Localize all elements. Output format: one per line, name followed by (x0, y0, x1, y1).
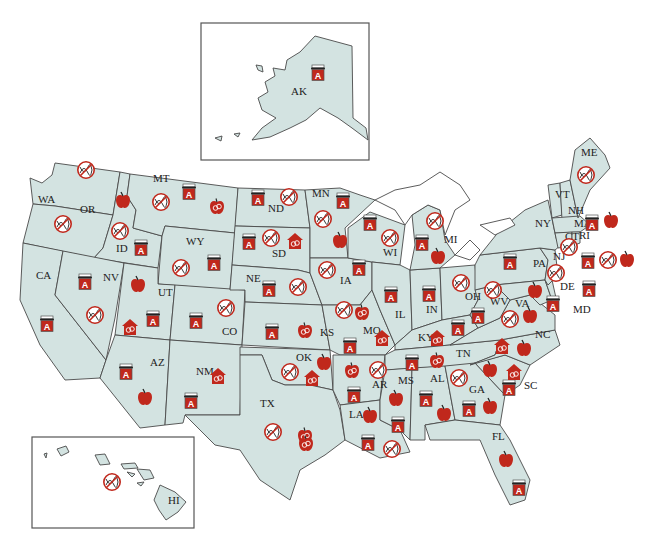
no-dna-icon (380, 228, 400, 248)
alaska-inset (201, 23, 369, 160)
grade-a-icon: A (582, 212, 602, 232)
state-label-me: ME (581, 146, 598, 158)
state-label-al: AL (430, 372, 445, 384)
state-label-nc: NC (535, 328, 550, 340)
no-dna-icon (313, 209, 333, 229)
grade-a-icon: A (509, 477, 529, 497)
svg-text:A: A (507, 260, 514, 270)
no-dna-icon (76, 160, 96, 180)
state-label-ca: CA (36, 269, 51, 281)
state-label-nv: NV (103, 271, 119, 283)
apple-icon (428, 246, 448, 266)
grade-a-icon: A (448, 317, 468, 337)
svg-text:A: A (193, 319, 200, 329)
state-label-ga: GA (469, 383, 485, 395)
svg-text:A: A (426, 292, 433, 302)
grade-a-icon: A (239, 231, 259, 251)
state-ks (242, 302, 330, 350)
state-label-il: IL (395, 308, 406, 320)
grade-a-icon: A (381, 284, 401, 304)
apple-gender-icon (295, 320, 315, 340)
svg-text:A: A (589, 221, 596, 231)
svg-text:A: A (44, 322, 51, 332)
apple-icon (496, 449, 516, 469)
svg-text:A: A (255, 196, 262, 206)
schoolhouse-gender-icon (285, 231, 305, 251)
grade-a-icon: A (75, 271, 95, 291)
grade-a-icon: A (340, 335, 360, 355)
svg-text:A: A (82, 280, 89, 290)
schoolhouse-gender-icon (120, 317, 140, 337)
no-dna-icon (102, 472, 122, 492)
svg-text:A: A (419, 241, 426, 251)
svg-text:A: A (138, 246, 145, 256)
apple-icon (128, 274, 148, 294)
apple-icon (360, 405, 380, 425)
grade-a-icon: A (308, 62, 328, 82)
grade-a-icon: A (131, 237, 151, 257)
apple-icon (601, 210, 621, 230)
state-az (100, 335, 170, 428)
svg-text:A: A (340, 199, 347, 209)
schoolhouse-gender-icon (504, 362, 524, 382)
svg-text:A: A (409, 361, 416, 371)
svg-text:A: A (365, 441, 372, 451)
state-label-wy: WY (186, 235, 204, 247)
grade-a-icon: A (116, 361, 136, 381)
apple-icon (386, 388, 406, 408)
state-label-vt: VT (555, 188, 570, 200)
grade-a-icon: A (543, 293, 563, 313)
apple-icon (514, 338, 534, 358)
svg-text:A: A (475, 314, 482, 324)
svg-text:A: A (516, 486, 523, 496)
svg-text:A: A (356, 266, 363, 276)
svg-text:A: A (315, 71, 322, 81)
no-dna-icon (317, 260, 337, 280)
schoolhouse-gender-icon (372, 328, 392, 348)
state-label-sd: SD (272, 247, 286, 259)
svg-text:A: A (586, 287, 593, 297)
svg-text:A: A (150, 317, 157, 327)
apple-gender-icon (352, 302, 372, 322)
no-dna-icon (382, 439, 402, 459)
no-dna-icon (261, 228, 281, 248)
state-nm (165, 340, 242, 425)
state-label-hi: HI (168, 494, 180, 506)
grade-a-icon: A (500, 251, 520, 271)
apple-icon (480, 396, 500, 416)
no-dna-icon (151, 192, 171, 212)
apple-gender-icon (342, 360, 362, 380)
state-label-fl: FL (492, 430, 505, 442)
svg-text:A: A (186, 190, 193, 200)
grade-a-icon: A (388, 414, 408, 434)
svg-text:A: A (269, 330, 276, 340)
apple-icon (113, 190, 133, 210)
svg-text:A: A (347, 344, 354, 354)
svg-text:A: A (367, 221, 374, 231)
apple-gender-icon (427, 350, 447, 370)
schoolhouse-gender-icon (427, 328, 447, 348)
no-dna-icon (598, 250, 618, 270)
state-label-wa: WA (38, 193, 55, 205)
svg-text:A: A (466, 407, 473, 417)
grade-a-icon: A (179, 181, 199, 201)
grade-a-icon: A (344, 384, 364, 404)
state-label-mi: MI (444, 233, 458, 245)
svg-text:A: A (211, 261, 218, 271)
grade-a-icon: A (349, 257, 369, 277)
no-dna-icon (451, 273, 471, 293)
grade-a-icon: A (468, 305, 488, 325)
grade-a-icon: A (358, 432, 378, 452)
state-label-md: MD (573, 303, 591, 315)
state-label-sc: SC (524, 379, 537, 391)
svg-text:A: A (246, 240, 253, 250)
no-dna-icon (288, 277, 308, 297)
state-label-az: AZ (150, 356, 165, 368)
svg-text:A: A (550, 302, 557, 312)
grade-a-icon: A (360, 212, 380, 232)
grade-a-icon: A (402, 352, 422, 372)
no-dna-icon (53, 214, 73, 234)
grade-a-icon: A (248, 187, 268, 207)
schoolhouse-gender-icon (492, 336, 512, 356)
svg-text:A: A (351, 393, 358, 403)
